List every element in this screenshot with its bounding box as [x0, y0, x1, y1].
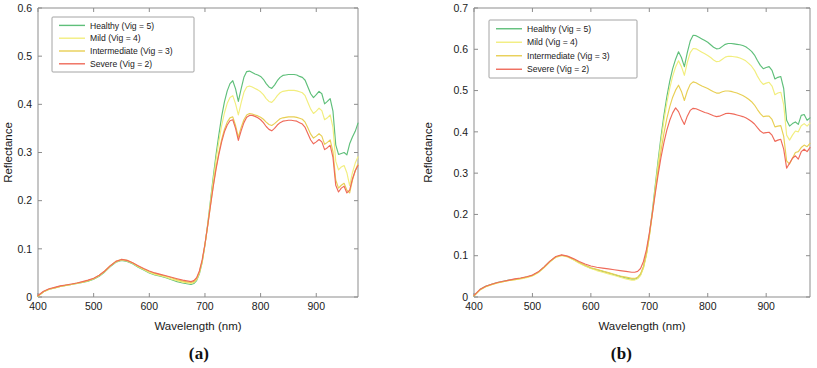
y-tick-label: 0.7	[453, 2, 468, 14]
legend-label: Healthy (Vig = 5)	[527, 24, 591, 34]
spectral-plot-b: 40050060070080090000.10.20.30.40.50.60.7…	[410, 0, 817, 340]
spectrum-line	[474, 48, 810, 295]
panel-b-caption: (b)	[418, 344, 817, 364]
x-tick-label: 900	[757, 300, 775, 312]
y-tick-label: 0	[462, 291, 468, 303]
spectrum-line	[474, 108, 810, 295]
y-tick-label: 0.1	[453, 249, 468, 261]
x-tick-label: 800	[252, 300, 270, 312]
legend-label: Mild (Vig = 4)	[90, 33, 141, 43]
spectrum-line	[38, 113, 358, 296]
y-tick-label: 0	[26, 291, 32, 303]
y-tick-label: 0.2	[453, 208, 468, 220]
legend: Healthy (Vig = 5)Mild (Vig = 4)Intermedi…	[489, 20, 637, 78]
legend-label: Intermediate (Vig = 3)	[90, 46, 173, 56]
y-tick-label: 0.3	[17, 146, 32, 158]
y-axis-title: Reflectance	[422, 122, 434, 183]
y-tick-label: 0.2	[17, 194, 32, 206]
panel-b: 40050060070080090000.10.20.30.40.50.60.7…	[410, 0, 817, 368]
legend-label: Healthy (Vig = 5)	[90, 21, 154, 31]
reflectance-figure: 40050060070080090000.10.20.30.40.50.6Wav…	[0, 0, 817, 368]
panel-a: 40050060070080090000.10.20.30.40.50.6Wav…	[0, 0, 410, 368]
spectrum-line	[38, 86, 358, 296]
y-tick-label: 0.5	[17, 50, 32, 62]
x-tick-label: 800	[699, 300, 717, 312]
y-tick-label: 0.6	[17, 2, 32, 14]
x-axis-title: Wavelength (nm)	[598, 320, 685, 332]
y-tick-label: 0.4	[453, 126, 468, 138]
legend-label: Severe (Vig = 2)	[90, 59, 152, 69]
x-axis-title: Wavelength (nm)	[154, 320, 241, 332]
x-tick-label: 500	[85, 300, 103, 312]
y-axis-title: Reflectance	[2, 122, 14, 183]
legend-label: Mild (Vig = 4)	[527, 37, 578, 47]
legend-label: Intermediate (Vig = 3)	[527, 51, 610, 61]
y-tick-label: 0.3	[453, 167, 468, 179]
x-tick-label: 500	[524, 300, 542, 312]
x-tick-label: 700	[196, 300, 214, 312]
y-tick-label: 0.6	[453, 43, 468, 55]
spectral-plot-a: 40050060070080090000.10.20.30.40.50.6Wav…	[0, 0, 410, 340]
y-tick-label: 0.1	[17, 243, 32, 255]
spectrum-line	[38, 71, 358, 296]
x-tick-label: 900	[307, 300, 325, 312]
legend-label: Severe (Vig = 2)	[527, 64, 589, 74]
y-tick-label: 0.5	[453, 84, 468, 96]
legend: Healthy (Vig = 5)Mild (Vig = 4)Intermedi…	[52, 17, 194, 72]
panel-a-caption: (a)	[0, 344, 404, 364]
x-tick-label: 700	[641, 300, 659, 312]
spectrum-line	[38, 115, 358, 295]
y-tick-label: 0.4	[17, 98, 32, 110]
x-tick-label: 600	[582, 300, 600, 312]
x-tick-label: 600	[141, 300, 159, 312]
